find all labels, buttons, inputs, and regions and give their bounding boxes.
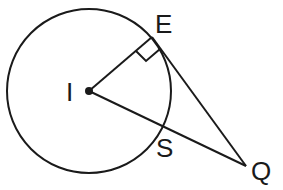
geometry-figure: E I S Q [0, 0, 283, 190]
center-point-dot [85, 87, 93, 95]
diagram-canvas: E I S Q [0, 0, 283, 190]
label-e: E [155, 9, 172, 39]
label-q: Q [251, 156, 271, 186]
radius-ie [89, 37, 152, 91]
label-i: I [66, 77, 73, 107]
right-angle-marker [136, 49, 160, 61]
label-s: S [156, 133, 173, 163]
